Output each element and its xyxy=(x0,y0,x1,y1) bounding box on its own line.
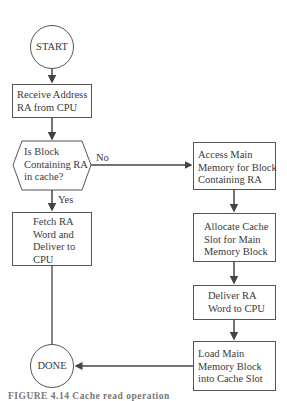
start-label: START xyxy=(36,41,68,54)
allocate-line-1: Allocate Cache xyxy=(204,221,275,234)
deliver-word-step: Deliver RA Word to CPU xyxy=(193,285,276,320)
deliver-line-2: Word to CPU xyxy=(208,303,275,316)
start-terminal: START xyxy=(30,25,74,69)
fetch-line-4: CPU xyxy=(33,254,91,267)
decision-line-1: Is Block xyxy=(24,146,94,159)
allocate-line-3: Memory Block xyxy=(204,246,275,259)
done-label: DONE xyxy=(37,360,66,373)
figure-caption: FIGURE 4.14 Cache read operation xyxy=(8,391,170,401)
decision-text: Is Block Containing RA in cache? xyxy=(24,146,94,184)
fetch-word-step: Fetch RA Word and Deliver to CPU xyxy=(12,212,92,266)
done-terminal: DONE xyxy=(30,344,74,388)
access-main-memory-step: Access Main Memory for Block Containing … xyxy=(193,142,276,190)
load-line-2: Memory Block xyxy=(198,361,271,374)
allocate-line-2: Slot for Main xyxy=(204,234,275,247)
fetch-line-2: Word and xyxy=(33,229,91,242)
deliver-line-1: Deliver RA xyxy=(208,290,275,303)
receive-line-1: Receive Address xyxy=(17,89,87,102)
branch-yes-label: Yes xyxy=(58,194,73,205)
allocate-cache-slot-step: Allocate Cache Slot for Main Memory Bloc… xyxy=(193,213,276,262)
receive-line-2: RA from CPU xyxy=(17,102,87,115)
fetch-line-3: Deliver to xyxy=(33,241,91,254)
receive-address-step: Receive Address RA from CPU xyxy=(12,84,92,118)
decision-line-3: in cache? xyxy=(24,171,94,184)
load-line-3: into Cache Slot xyxy=(198,373,271,386)
fetch-line-1: Fetch RA xyxy=(33,216,91,229)
branch-no-label: No xyxy=(96,152,109,163)
access-line-1: Access Main xyxy=(198,149,271,162)
decision-line-2: Containing RA xyxy=(24,159,94,172)
load-line-1: Load Main xyxy=(198,348,271,361)
access-line-2: Memory for Block xyxy=(198,162,271,175)
access-line-3: Containing RA xyxy=(198,174,271,187)
load-block-step: Load Main Memory Block into Cache Slot xyxy=(193,341,276,391)
